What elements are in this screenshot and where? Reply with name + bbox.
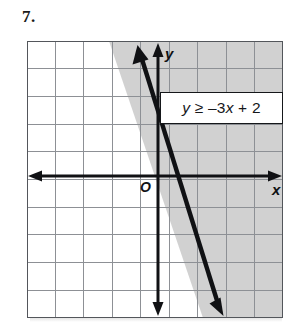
inequality-callout-box: y ≥ –3x + 2 [160, 92, 283, 124]
inequality-text: y ≥ –3x + 2 [182, 99, 260, 117]
coordinate-graph-figure [27, 41, 283, 318]
problem-number-label: 7. [22, 8, 36, 25]
graph-canvas [27, 41, 283, 318]
worksheet-page: 7. [0, 0, 304, 335]
origin-label: O [140, 180, 151, 194]
page-scan-shadow [30, 318, 282, 322]
y-axis-label: y [165, 46, 173, 61]
x-axis-label: x [272, 182, 280, 197]
